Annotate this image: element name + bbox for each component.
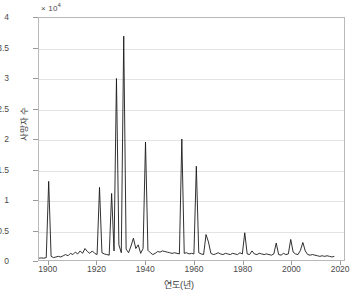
y-axis-title: 사망자 수 — [17, 94, 29, 154]
x-tick-mark — [194, 261, 195, 265]
y-axis-exponent-label: × 104 — [41, 2, 61, 13]
x-tick-label: 1980 — [233, 264, 252, 274]
x-tick-label: 1920 — [87, 264, 106, 274]
y-tick-mark — [33, 261, 38, 262]
y-tick-label: 2.5 — [0, 104, 9, 114]
y-tick-label: 4 — [4, 12, 9, 22]
x-tick-mark — [243, 261, 244, 265]
x-axis-title: 연도(년) — [0, 278, 358, 291]
x-tick-label: 2020 — [331, 264, 350, 274]
y-tick-label: 0 — [4, 256, 9, 266]
x-tick-mark — [48, 261, 49, 265]
y-tick-label: 1.5 — [0, 165, 9, 175]
y-tick-label: 0.5 — [0, 226, 9, 236]
x-tick-label: 1960 — [184, 264, 203, 274]
y-tick-label: 3 — [4, 73, 9, 83]
chart-root: × 104 사망자 수 00.511.522.533.54 1900192019… — [0, 0, 358, 297]
y-tick-label: 2 — [4, 134, 9, 144]
x-tick-mark — [340, 261, 341, 265]
exponent-base: × 10 — [41, 4, 58, 13]
plot-area — [38, 17, 345, 261]
y-tick-label: 1 — [4, 195, 9, 205]
x-tick-label: 1900 — [38, 264, 57, 274]
x-tick-mark — [291, 261, 292, 265]
x-tick-mark — [96, 261, 97, 265]
x-tick-label: 1940 — [136, 264, 155, 274]
x-tick-label: 2000 — [282, 264, 301, 274]
series-line — [39, 18, 344, 260]
exponent-power: 4 — [58, 2, 62, 8]
y-tick-label: 3.5 — [0, 43, 9, 53]
x-tick-mark — [145, 261, 146, 265]
